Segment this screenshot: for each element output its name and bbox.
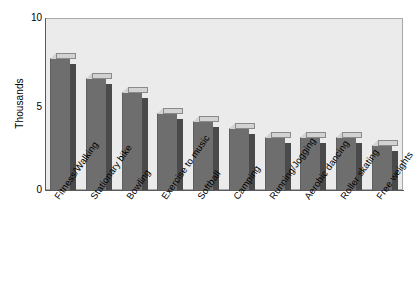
x-axis-label: Softball (195, 168, 223, 201)
x-axis-label: Free weights (374, 149, 415, 201)
x-axis-label: Camping (231, 163, 262, 201)
bar-chart: Thousands 10 5 0 Fitness/WalkingStationa… (0, 0, 420, 304)
x-axis-category-labels: Fitness/WalkingStationary bikeBowlingExe… (0, 0, 420, 304)
x-axis-label: Bowling (124, 167, 152, 201)
